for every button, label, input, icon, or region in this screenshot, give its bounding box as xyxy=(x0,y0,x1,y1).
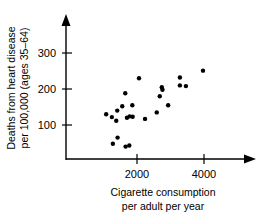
data-point xyxy=(184,84,188,88)
data-point xyxy=(137,76,141,80)
chart-canvas: 300 200 100 2000 4000 Cigarette consumpt… xyxy=(0,0,275,221)
x-axis-arrow-icon xyxy=(244,155,256,164)
y-axis-title-line1: Deaths from heart disease xyxy=(5,26,17,149)
y-tick-label-300: 300 xyxy=(38,47,56,59)
y-axis xyxy=(62,14,71,160)
y-tick-marks xyxy=(62,53,72,125)
y-tick-label-100: 100 xyxy=(38,119,56,131)
x-axis xyxy=(66,155,256,164)
data-point xyxy=(114,118,118,122)
data-point xyxy=(130,115,134,119)
data-point xyxy=(201,68,205,72)
scatter-plot-figure: 300 200 100 2000 4000 Cigarette consumpt… xyxy=(0,0,275,221)
x-axis-title-line2: per adult per year xyxy=(122,200,205,212)
data-point xyxy=(130,103,134,107)
data-point xyxy=(127,143,131,147)
data-point xyxy=(155,110,159,114)
data-point xyxy=(123,91,127,95)
data-point xyxy=(143,117,147,121)
y-axis-title-line2: per 100,000 (ages 35–64) xyxy=(18,28,30,149)
data-point xyxy=(115,135,119,139)
data-point xyxy=(104,112,108,116)
data-point xyxy=(178,83,182,87)
y-axis-arrow-icon xyxy=(62,14,71,26)
data-point xyxy=(115,108,119,112)
x-tick-label-2000: 2000 xyxy=(125,168,149,180)
data-points-layer xyxy=(104,68,205,148)
x-axis-title-line1: Cigarette consumption xyxy=(110,186,215,198)
data-point xyxy=(166,103,170,107)
data-point xyxy=(178,75,182,79)
x-tick-label-4000: 4000 xyxy=(192,168,216,180)
data-point xyxy=(120,104,124,108)
data-point xyxy=(158,94,162,98)
y-tick-label-200: 200 xyxy=(38,83,56,95)
data-point xyxy=(111,142,115,146)
data-point xyxy=(110,115,114,119)
data-point xyxy=(160,88,164,92)
